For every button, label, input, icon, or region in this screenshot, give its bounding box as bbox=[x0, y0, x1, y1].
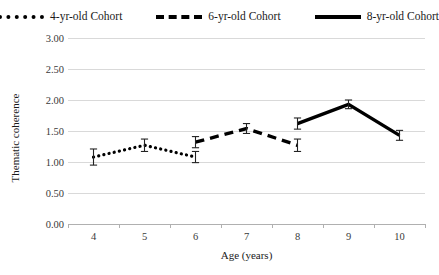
x-axis-title: Age (years) bbox=[68, 249, 425, 261]
error-bar bbox=[141, 139, 148, 151]
error-bar bbox=[294, 139, 301, 151]
error-bar bbox=[90, 149, 97, 165]
